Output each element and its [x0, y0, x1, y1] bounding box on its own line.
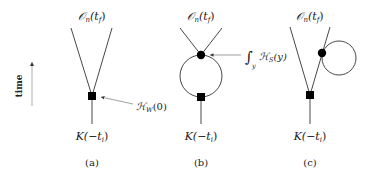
svg-text:ℋS(y): ℋS(y): [259, 51, 287, 64]
time-axis: time: [14, 62, 32, 106]
bottom-label-b: K(−ti): [184, 130, 218, 144]
caption-a: (a): [85, 157, 99, 168]
top-label-c: 𝒪n(tf): [296, 10, 323, 24]
feynman-diagrams-figure: time 𝒪n(tf) ℋW(0) K(−ti) (a) 𝒪n(tf) ∫: [0, 0, 374, 177]
time-label: time: [14, 74, 24, 97]
svg-text:y: y: [251, 62, 256, 70]
diagram-b: 𝒪n(tf) ∫ y ℋS(y) K(−ti) (b): [180, 10, 287, 168]
external-line-left-c: [290, 27, 310, 95]
weak-vertex-square-icon: [306, 91, 314, 99]
external-line-right-a: [92, 28, 112, 96]
loop-circle-b: [180, 55, 222, 97]
top-label-a: 𝒪n(tf): [78, 10, 105, 24]
external-line-right-c: [310, 27, 330, 95]
hw-label: ℋW(0): [136, 101, 167, 114]
strong-vertex-dot-icon: [318, 49, 326, 57]
weak-vertex-square-icon: [197, 93, 205, 101]
caption-c: (c): [303, 157, 317, 168]
tadpole-loop-circle-c: [322, 41, 356, 75]
top-label-b: 𝒪n(tf): [187, 10, 214, 24]
weak-vertex-square-icon: [88, 92, 96, 100]
external-line-right-b: [201, 28, 222, 55]
caption-b: (b): [194, 157, 208, 168]
bottom-label-a: K(−ti): [75, 130, 109, 144]
external-line-left-a: [71, 28, 92, 96]
diagram-c: 𝒪n(tf) K(−ti) (c): [290, 10, 356, 168]
external-line-left-b: [180, 28, 201, 55]
annotation-arrow-a: [101, 97, 133, 104]
hs-integral-label: ∫ y ℋS(y): [245, 48, 287, 70]
bottom-label-c: K(−ti): [293, 130, 327, 144]
diagram-a: 𝒪n(tf) ℋW(0) K(−ti) (a): [71, 10, 167, 168]
strong-vertex-dot-icon: [197, 51, 205, 59]
